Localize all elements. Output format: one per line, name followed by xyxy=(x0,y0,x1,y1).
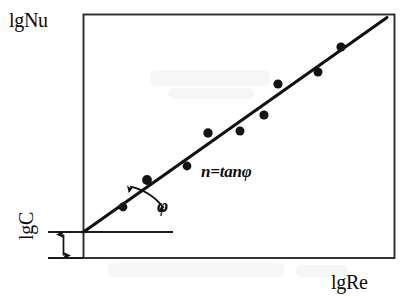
data-point xyxy=(203,128,212,137)
data-point xyxy=(273,79,282,88)
data-point xyxy=(259,110,268,119)
x-axis-label: lgRe xyxy=(331,272,368,292)
y-axis-label: lgNu xyxy=(9,10,48,30)
data-point xyxy=(119,203,128,212)
data-point xyxy=(336,42,345,51)
slope-equation-text: n=tan xyxy=(201,162,242,181)
log-log-correlation-figure: lgNu lgRe lgC n=tanφ φ xyxy=(0,0,413,301)
slope-equation-annotation: n=tanφ xyxy=(201,163,252,180)
data-point xyxy=(183,162,192,171)
data-point xyxy=(236,127,245,136)
data-point xyxy=(142,175,152,185)
figure-background xyxy=(0,0,413,301)
figure-canvas xyxy=(0,0,413,301)
slope-equation-phi: φ xyxy=(242,162,252,181)
angle-symbol-label: φ xyxy=(157,196,168,215)
intercept-label: lgC xyxy=(16,196,36,256)
data-point xyxy=(314,68,323,77)
